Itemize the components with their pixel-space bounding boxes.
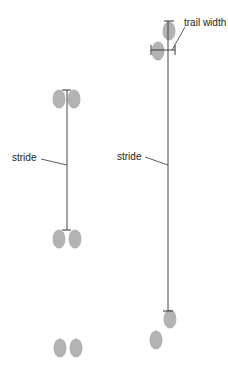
left-stride-measure (41, 90, 71, 230)
print-pair-middle (53, 230, 82, 249)
right-trail: stride trail width (117, 17, 226, 350)
right-stride-measure (145, 21, 174, 311)
footprint (68, 90, 81, 109)
left-stride-leader (41, 159, 67, 165)
diagram-svg: stride stride trail width (0, 0, 228, 377)
footprint (152, 42, 165, 61)
left-trail: stride (12, 90, 83, 358)
footprint (69, 230, 82, 249)
footprint (53, 90, 66, 109)
footprint (164, 310, 177, 329)
print-pair-top (53, 90, 81, 109)
right-stride-leader (145, 157, 168, 165)
track-pattern-diagram: stride stride trail width (0, 0, 228, 377)
right-stride-label: stride (117, 151, 142, 162)
footprint (70, 339, 83, 358)
footprint (54, 339, 67, 358)
footprint (53, 230, 66, 249)
footprint (150, 331, 163, 350)
trail-width-label: trail width (184, 17, 226, 28)
footprint (163, 22, 176, 41)
left-stride-label: stride (12, 152, 37, 163)
print-pair-bottom (54, 339, 83, 358)
